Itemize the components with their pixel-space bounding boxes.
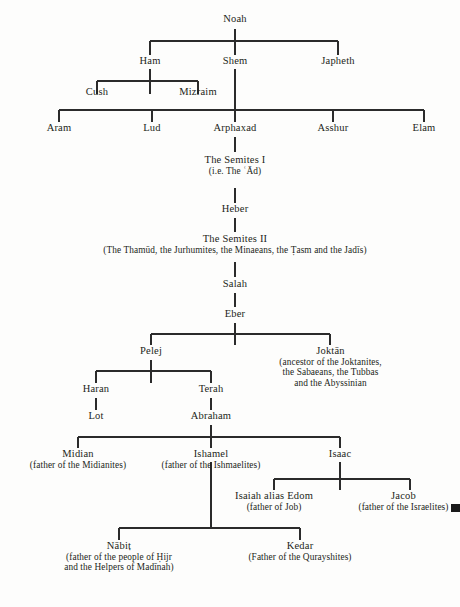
node-midian-label: Midian xyxy=(8,448,148,460)
node-jacob[interactable]: Jacob (father of the Israelites) xyxy=(347,490,460,512)
node-terah[interactable]: Terah xyxy=(181,383,241,395)
node-midian[interactable]: Midian (father of the Midianites) xyxy=(8,448,148,470)
node-semites-i[interactable]: The Semites I (i.e. The ʿĀd) xyxy=(155,154,315,176)
node-arphaxad-label: Arphaxad xyxy=(195,122,275,134)
node-isaiah-edom-sublabel: (father of Job) xyxy=(209,502,339,512)
node-asshur-label: Asshur xyxy=(300,122,366,134)
node-joktan-sublabel-1: (ancestor of the Joktanites, xyxy=(258,357,403,367)
node-shem-label: Shem xyxy=(205,55,265,67)
node-nabit-sublabel-1: (father of the people of Ḥijr xyxy=(45,552,193,562)
node-pelej[interactable]: Pelej xyxy=(121,345,181,357)
node-abraham[interactable]: Abraham xyxy=(176,410,246,422)
node-semites-ii[interactable]: The Semites II (The Thamūd, the Jurhumit… xyxy=(30,233,440,255)
node-cush[interactable]: Cush xyxy=(67,86,127,98)
genealogy-tree: Noah Ham Shem Japheth Cush Mizraim Aram … xyxy=(0,0,460,607)
node-ham[interactable]: Ham xyxy=(120,55,180,67)
node-jacob-label: Jacob xyxy=(347,490,460,502)
node-lot[interactable]: Lot xyxy=(66,410,126,422)
node-heber-label: Heber xyxy=(205,203,265,215)
node-elam[interactable]: Elam xyxy=(394,122,454,134)
node-kedar-sublabel: (Father of the Qurayshites) xyxy=(228,552,372,562)
node-semites-ii-label: The Semites II xyxy=(30,233,440,245)
node-joktan-sublabel-2: the Sabaeans, the Tubbas xyxy=(258,367,403,377)
node-isaac-label: Isaac xyxy=(310,448,370,460)
node-noah[interactable]: Noah xyxy=(205,13,265,25)
node-ishamel-label: Ishamel xyxy=(139,448,283,460)
node-lud-label: Lud xyxy=(122,122,182,134)
node-asshur[interactable]: Asshur xyxy=(300,122,366,134)
page-edge-artifact xyxy=(451,504,460,512)
node-joktan-sublabel-3: and the Abyssinian xyxy=(258,378,403,388)
node-kedar[interactable]: Kedar (Father of the Qurayshites) xyxy=(228,540,372,562)
node-arphaxad[interactable]: Arphaxad xyxy=(195,122,275,134)
node-heber[interactable]: Heber xyxy=(205,203,265,215)
node-haran-label: Haran xyxy=(66,383,126,395)
node-joktan-label: Joktān xyxy=(258,345,403,357)
node-kedar-label: Kedar xyxy=(228,540,372,552)
node-nabit-label: Nābiṭ xyxy=(45,540,193,552)
node-aram[interactable]: Aram xyxy=(29,122,89,134)
node-eber[interactable]: Eber xyxy=(205,308,265,320)
node-ishamel-sublabel: (father of the Ishmaelites) xyxy=(139,460,283,470)
node-jacob-sublabel: (father of the Israelites) xyxy=(347,502,460,512)
node-aram-label: Aram xyxy=(29,122,89,134)
node-nabit[interactable]: Nābiṭ (father of the people of Ḥijr and … xyxy=(45,540,193,573)
node-mizraim[interactable]: Mizraim xyxy=(163,86,233,98)
node-abraham-label: Abraham xyxy=(176,410,246,422)
node-isaac[interactable]: Isaac xyxy=(310,448,370,460)
node-cush-label: Cush xyxy=(67,86,127,98)
node-semites-ii-sublabel: (The Thamūd, the Jurhumites, the Minaean… xyxy=(30,245,440,255)
node-semites-i-sublabel: (i.e. The ʿĀd) xyxy=(155,166,315,176)
node-semites-i-label: The Semites I xyxy=(155,154,315,166)
node-isaiah-edom[interactable]: Isaiah alias Edom (father of Job) xyxy=(209,490,339,512)
node-salah[interactable]: Salah xyxy=(205,278,265,290)
node-shem[interactable]: Shem xyxy=(205,55,265,67)
node-nabit-sublabel-2: and the Helpers of Madīnah) xyxy=(45,562,193,572)
node-japheth-label: Japheth xyxy=(305,55,371,67)
node-joktan[interactable]: Joktān (ancestor of the Joktanites, the … xyxy=(258,345,403,388)
node-lud[interactable]: Lud xyxy=(122,122,182,134)
node-ham-label: Ham xyxy=(120,55,180,67)
node-eber-label: Eber xyxy=(205,308,265,320)
node-salah-label: Salah xyxy=(205,278,265,290)
node-mizraim-label: Mizraim xyxy=(163,86,233,98)
node-noah-label: Noah xyxy=(205,13,265,25)
node-lot-label: Lot xyxy=(66,410,126,422)
node-haran[interactable]: Haran xyxy=(66,383,126,395)
node-japheth[interactable]: Japheth xyxy=(305,55,371,67)
node-terah-label: Terah xyxy=(181,383,241,395)
node-ishamel[interactable]: Ishamel (father of the Ishmaelites) xyxy=(139,448,283,470)
node-isaiah-edom-label: Isaiah alias Edom xyxy=(209,490,339,502)
node-pelej-label: Pelej xyxy=(121,345,181,357)
node-elam-label: Elam xyxy=(394,122,454,134)
node-midian-sublabel: (father of the Midianites) xyxy=(8,460,148,470)
